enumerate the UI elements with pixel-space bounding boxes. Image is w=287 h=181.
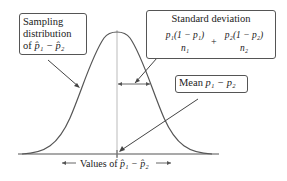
sampling-distribution-label: Sampling distribution of p̂₁ − p̂₂ xyxy=(19,13,87,55)
sd-plus: + xyxy=(211,36,217,47)
x-axis-label-math: p̂₁ − p̂₂ xyxy=(120,158,149,169)
sd-frac1-num: p₁(1 − p₁) xyxy=(160,30,210,40)
mean-text: Mean xyxy=(179,77,203,88)
mean-math: p₁ − p₂ xyxy=(206,77,236,88)
sampling-line3: of p̂₁ − p̂₂ xyxy=(23,40,83,52)
x-label-right-arrowhead xyxy=(167,161,171,165)
mean-label: Mean p₁ − p₂ xyxy=(175,75,248,93)
sampling-line2: distribution xyxy=(23,28,83,40)
sampling-line3-prefix: of xyxy=(23,40,34,51)
x-axis-label-prefix: Values of xyxy=(80,158,118,169)
x-label-left-arrowhead xyxy=(62,161,66,165)
sd-arrow-right-head xyxy=(146,82,150,86)
sd-frac2-num: p₂(1 − p₂) xyxy=(219,30,269,40)
sd-arrow-left-head xyxy=(118,82,122,86)
sampling-line3-math: p̂₁ − p̂₂ xyxy=(34,40,64,51)
sd-frac1-den: n₁ xyxy=(160,43,210,53)
sampling-pointer xyxy=(48,60,79,87)
sampling-line1: Sampling xyxy=(23,16,83,28)
x-axis-label: Values of p̂₁ − p̂₂ xyxy=(80,158,149,169)
sd-pointer xyxy=(135,58,157,83)
sd-frac2-den: n₂ xyxy=(219,43,269,53)
mean-pointer-head xyxy=(119,146,125,152)
sd-title: Standard deviation xyxy=(147,13,275,25)
